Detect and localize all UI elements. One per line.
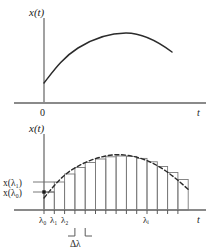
riemann-bar [147,162,157,210]
riemann-bar [168,173,178,211]
riemann-bar [106,157,116,210]
top-curve [44,33,172,83]
riemann-bar [65,174,75,210]
origin-marker [42,190,45,193]
top-x-axis-label: t [197,107,200,118]
riemann-bar [75,168,85,211]
top-chart-svg: x(t) 0 t [0,0,214,120]
riemann-bar [96,159,106,210]
tick-label-lambda-i: λᵢ [143,215,149,225]
bottom-chart-svg: x(λ₁) x(λ₀) λ₀ λ₁ λ₂ [0,120,214,249]
interval-label-delta-lambda: Δλ [70,239,81,249]
bottom-y-axis-label: x(t) [28,122,45,135]
value-label-x-lambda0: x(λ₀) [3,188,22,199]
riemann-bar [137,158,147,210]
top-y-axis-label: x(t) [28,6,45,19]
tick-label-lambda0: λ₀ [39,215,47,225]
riemann-bar [85,163,95,211]
riemann-rectangles [44,156,188,210]
bottom-chart-panel: x(λ₁) x(λ₀) λ₀ λ₁ λ₂ [0,120,214,249]
interval-bracket [68,228,92,236]
bottom-x-axis-label: t [197,214,200,225]
riemann-bar [126,156,136,210]
riemann-bar [54,182,64,210]
figure-container: x(t) 0 t [0,0,214,249]
top-origin-label: 0 [40,107,45,118]
riemann-bar [157,167,167,211]
riemann-bar [116,156,126,210]
tick-label-lambda1: λ₁ [50,215,58,225]
tick-label-lambda2: λ₂ [61,215,69,225]
riemann-bar [44,192,54,210]
top-chart-panel: x(t) 0 t [0,0,214,120]
bottom-dashed-curve [44,155,190,198]
